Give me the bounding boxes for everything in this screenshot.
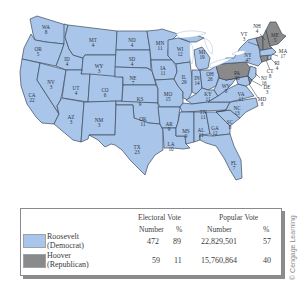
roosevelt-popular-percent: 57 [263,237,271,246]
svg-text:LA10: LA10 [168,141,175,152]
hoover-popular-number: 15,760,864 [201,256,237,265]
party-name: (Democrat) [47,242,84,251]
svg-text:VT3: VT3 [241,31,249,42]
republican-color-swatch [23,254,46,268]
results-legend-table: Electoral Vote Popular Vote Number % Num… [20,208,282,276]
svg-text:AL11: AL11 [198,127,205,138]
credit-text: © Cengage Learning [289,215,296,280]
svg-text:PA36: PA36 [234,70,240,81]
svg-text:NH4: NH4 [253,23,261,34]
svg-text:IN14: IN14 [194,75,200,86]
popular-number-header: Number [207,225,232,234]
popular-percent-header: % [263,225,269,234]
roosevelt-electoral-number: 472 [147,237,159,246]
svg-text:MA17: MA17 [279,48,288,59]
copyright-credit: © Cengage Learning [289,222,299,282]
party-name: (Republican) [47,261,89,270]
popular-vote-header: Popular Vote [219,213,258,222]
hoover-electoral-percent: 11 [174,256,182,265]
us-electoral-map: WA8 OR5 CA22 ID4 NV3 MT4 WY3 UT4 AZ3 CO6… [0,0,308,200]
roosevelt-label: Roosevelt (Democrat) [47,233,84,250]
svg-text:MD8: MD8 [258,96,267,107]
svg-text:RI4: RI4 [274,60,279,71]
hoover-electoral-number: 59 [152,256,160,265]
roosevelt-popular-number: 22,829,501 [201,237,237,246]
svg-text:WI12: WI12 [177,46,184,57]
electoral-vote-header: Electoral Vote [138,213,181,222]
state-ri [268,55,271,60]
svg-text:IA11: IA11 [160,65,166,76]
electoral-percent-header: % [176,225,182,234]
roosevelt-electoral-percent: 89 [173,237,181,246]
svg-text:IL29: IL29 [181,74,187,85]
svg-text:CT8: CT8 [267,68,274,79]
hoover-popular-percent: 40 [263,256,271,265]
hoover-label: Hoover (Republican) [47,252,89,269]
electoral-number-header: Number [139,225,164,234]
svg-text:MI19: MI19 [199,49,206,60]
svg-text:DE3: DE3 [264,84,271,95]
state-fl [200,134,242,180]
democrat-color-swatch [23,234,46,248]
svg-text:SC8: SC8 [227,119,234,130]
